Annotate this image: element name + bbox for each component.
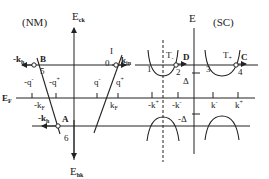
nm-panel: (NM) Eck Ehk EF -q- -q+ q- q+ -kF kF <box>2 10 135 178</box>
sc-panel: (SC) E -k+ -k- k- k+ Δ -Δ <box>135 12 258 162</box>
nm-axis-eck: Eck <box>72 10 85 23</box>
label-c: C <box>241 52 248 62</box>
label-q-plus: q+ <box>116 76 125 87</box>
nm-title: (NM) <box>22 16 47 29</box>
label-kf: kF <box>110 100 119 111</box>
label-kin: kin <box>121 55 132 66</box>
nm-axis-ehk: Ehk <box>70 165 84 178</box>
label-6: 6 <box>64 133 69 143</box>
label-i: I <box>110 46 113 56</box>
label-k-minus: k- <box>211 99 218 110</box>
fermi-label: EF <box>2 93 12 104</box>
label-q-minus: q- <box>94 76 101 87</box>
label-4: 4 <box>238 67 243 77</box>
label-t-minus: T- <box>166 50 174 61</box>
label-delta: Δ <box>183 76 189 86</box>
nm-sc-band-diagram: (NM) Eck Ehk EF -q- -q+ q- q+ -kF kF <box>0 0 269 179</box>
label-2: 2 <box>176 67 181 77</box>
label-minus-k-plus: -k+ <box>148 99 160 110</box>
sc-title: (SC) <box>213 16 234 29</box>
label-5: 5 <box>40 66 45 76</box>
label-0: 0 <box>105 58 110 68</box>
label-d: D <box>183 52 190 62</box>
point-a <box>56 124 60 128</box>
label-1: 1 <box>147 64 152 74</box>
label-t-plus: T+ <box>223 50 233 61</box>
label-minus-kh-top: -kh <box>13 54 25 65</box>
label-b: B <box>40 54 46 64</box>
sc-lower-band-right <box>205 116 239 140</box>
point-b <box>32 63 36 67</box>
label-minus-kh-bottom: -kh <box>38 113 50 124</box>
label-minus-delta: -Δ <box>178 114 187 124</box>
label-minus-q-minus: -q- <box>24 76 34 87</box>
label-minus-q-plus: -q+ <box>49 76 61 87</box>
point-incident <box>114 63 118 67</box>
label-minus-k-minus: -k- <box>172 99 182 110</box>
label-k-plus: k+ <box>235 99 244 110</box>
label-3: 3 <box>206 64 211 74</box>
label-minus-kf: -kF <box>34 100 46 111</box>
label-a: A <box>62 114 69 124</box>
sc-axis-e: E <box>189 12 196 24</box>
